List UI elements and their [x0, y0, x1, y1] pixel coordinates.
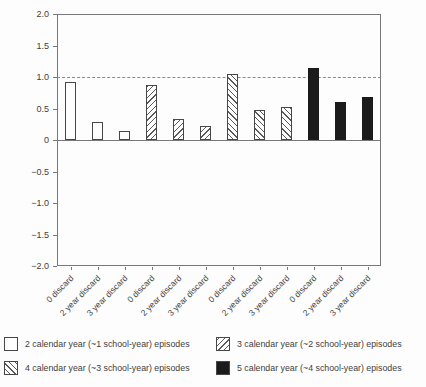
x-axis-tick: [71, 267, 72, 270]
bar-series3-3-year-discard: [281, 107, 292, 140]
y-axis-tick: [53, 14, 57, 15]
legend-swatch-solid-black-icon: [216, 361, 230, 375]
bar-series2-3-year-discard: [200, 126, 211, 140]
zero-line: [57, 140, 381, 141]
bar-series4-3-year-discard: [362, 97, 373, 140]
bar-series4-2-year-discard: [335, 102, 346, 140]
x-axis-tick: [206, 267, 207, 270]
bar-series2-0-discard: [146, 85, 157, 140]
legend-label: 5 calendar year (~4 school-year) episode…: [237, 363, 402, 373]
bar-series4-0-discard: [308, 68, 319, 140]
x-axis-tick: [287, 267, 288, 270]
y-axis-tick-label: 1.0: [0, 72, 49, 82]
x-axis-tick: [152, 267, 153, 270]
x-axis-tick: [341, 267, 342, 270]
y-axis-tick-label: −1.0: [0, 198, 49, 208]
legend-label: 3 calendar year (~2 school-year) episode…: [237, 339, 402, 349]
y-axis-tick: [53, 46, 57, 47]
legend-item-series2: 3 calendar year (~2 school-year) episode…: [216, 337, 424, 351]
y-axis-tick-label: 2.0: [0, 9, 49, 19]
legend-swatch-hatch-forward-icon: [216, 337, 230, 351]
legend-swatch-plain-icon: [4, 337, 18, 351]
y-axis-tick: [53, 266, 57, 267]
x-axis-tick: [260, 267, 261, 270]
y-axis-tick: [53, 172, 57, 173]
legend-item-series4: 5 calendar year (~4 school-year) episode…: [216, 361, 424, 375]
y-axis-tick: [53, 235, 57, 236]
y-axis-tick-label: −1.5: [0, 230, 49, 240]
x-axis-tick: [125, 267, 126, 270]
y-axis-tick-label: −2.0: [0, 261, 49, 271]
x-axis-tick: [98, 267, 99, 270]
reference-line: [57, 77, 381, 78]
legend-item-series1: 2 calendar year (~1 school-year) episode…: [4, 337, 216, 351]
legend-swatch-hatch-back-icon: [4, 361, 18, 375]
x-axis-tick: [179, 267, 180, 270]
y-axis-tick-label: 1.5: [0, 41, 49, 51]
y-axis-tick-label: 0: [0, 135, 49, 145]
y-axis-tick-label: −0.5: [0, 167, 49, 177]
x-axis-tick: [368, 267, 369, 270]
bar-series1-3-year-discard: [119, 131, 130, 140]
bar-series3-2-year-discard: [254, 110, 265, 140]
legend-label: 2 calendar year (~1 school-year) episode…: [25, 339, 190, 349]
bar-series1-2-year-discard: [92, 122, 103, 140]
x-axis-tick: [314, 267, 315, 270]
y-axis-tick: [53, 109, 57, 110]
bar-series1-0-discard: [65, 82, 76, 140]
y-axis-tick-label: 0.5: [0, 104, 49, 114]
y-axis-tick: [53, 203, 57, 204]
x-axis-tick: [233, 267, 234, 270]
bar-series3-0-discard: [227, 74, 238, 140]
legend-label: 4 calendar year (~3 school-year) episode…: [25, 363, 190, 373]
bar-series2-2-year-discard: [173, 119, 184, 140]
figure: 2.01.51.00.50−0.5−1.0−1.5−2.0 0 discard2…: [0, 0, 426, 387]
legend: 2 calendar year (~1 school-year) episode…: [4, 337, 424, 375]
legend-item-series3: 4 calendar year (~3 school-year) episode…: [4, 361, 216, 375]
